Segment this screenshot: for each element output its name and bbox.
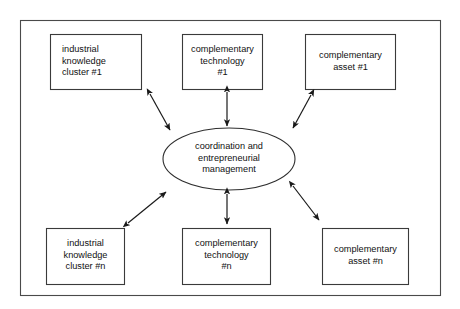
diagram-canvas: industrial knowledge cluster #1 compleme… (0, 0, 460, 309)
node-box-complementary-technology-n[interactable] (183, 229, 271, 285)
connector-hub-to-complementary-asset-1 (293, 95, 311, 128)
node-box-industrial-knowledge-cluster-n[interactable] (47, 229, 125, 285)
connector-hub-to-industrial-knowledge-cluster-1 (150, 94, 170, 130)
hub-ellipse[interactable] (163, 128, 295, 190)
connector-hub-to-complementary-asset-n (293, 186, 319, 220)
connector-hub-to-industrial-knowledge-cluster-n (128, 192, 166, 223)
node-box-complementary-technology-1[interactable] (183, 35, 263, 90)
node-box-industrial-knowledge-cluster-1[interactable] (51, 35, 142, 90)
node-box-complementary-asset-1[interactable] (306, 35, 396, 90)
diagram-graphics (0, 0, 460, 309)
node-box-complementary-asset-n[interactable] (323, 229, 409, 285)
